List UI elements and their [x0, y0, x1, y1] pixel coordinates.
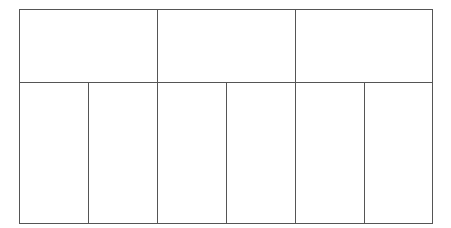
- grid-diagram: [19, 9, 433, 224]
- top-cell-3: [296, 10, 432, 82]
- bottom-cell-2: [89, 83, 157, 223]
- bottom-cell-4: [227, 83, 295, 223]
- bottom-cell-5: [296, 83, 364, 223]
- bottom-cell-1: [20, 83, 88, 223]
- top-cell-2: [158, 10, 295, 82]
- top-cell-1: [20, 10, 157, 82]
- bottom-cell-3: [158, 83, 226, 223]
- bottom-cell-6: [365, 83, 432, 223]
